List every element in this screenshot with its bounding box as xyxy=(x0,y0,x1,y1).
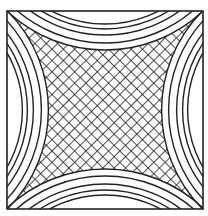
geometric-pattern-figure xyxy=(0,0,208,216)
crosshatch-region xyxy=(7,11,203,209)
pattern-svg xyxy=(0,0,208,216)
